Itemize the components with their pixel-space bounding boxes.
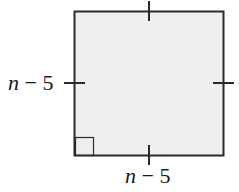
left-side-label: n − 5 xyxy=(8,72,53,94)
bottom-label-variable: n xyxy=(125,163,136,188)
bottom-label-rest: − 5 xyxy=(136,163,170,188)
square xyxy=(75,12,224,156)
bottom-side-label: n − 5 xyxy=(125,165,170,187)
left-label-variable: n xyxy=(8,70,19,95)
square-diagram xyxy=(0,0,239,192)
left-label-rest: − 5 xyxy=(19,70,53,95)
